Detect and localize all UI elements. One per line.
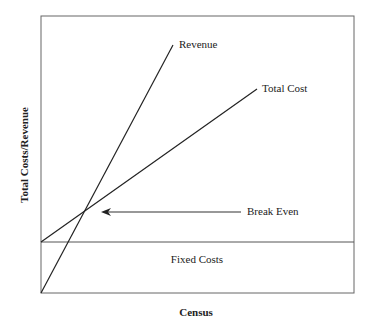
- revenue-label: Revenue: [179, 38, 218, 50]
- x-axis-label: Census: [179, 306, 213, 318]
- chart-frame: [41, 16, 354, 293]
- total-cost-label: Total Cost: [262, 82, 307, 94]
- break-even-label: Break Even: [247, 205, 299, 217]
- break-even-chart: Revenue Total Cost Break Even Fixed Cost…: [0, 0, 372, 324]
- total-cost-line: [41, 89, 257, 242]
- y-axis-label: Total Costs/Revenue: [18, 107, 30, 203]
- revenue-line: [41, 45, 173, 293]
- fixed-costs-label: Fixed Costs: [171, 253, 223, 265]
